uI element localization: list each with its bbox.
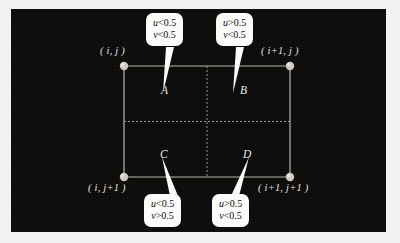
node-top-right bbox=[286, 62, 294, 70]
quadrant-label-c: C bbox=[160, 148, 168, 160]
quadrant-label-d: D bbox=[243, 148, 251, 160]
grid-geometry bbox=[0, 0, 400, 243]
corner-label-top-left: ( i, j ) bbox=[100, 45, 125, 56]
callout-d: u>0.5 v<0.5 bbox=[212, 194, 249, 227]
node-bottom-right bbox=[286, 173, 294, 181]
callout-b: u>0.5 v<0.5 bbox=[216, 13, 253, 46]
corner-label-bottom-right: ( i+1, j+1 ) bbox=[258, 182, 308, 193]
node-top-left bbox=[120, 62, 128, 70]
corner-label-bottom-left: ( i, j+1 ) bbox=[88, 182, 126, 193]
callout-d-line1: u>0.5 bbox=[219, 198, 242, 210]
callout-c-line1: u<0.5 bbox=[151, 198, 174, 210]
callout-c-line2: v>0.5 bbox=[151, 210, 174, 222]
callout-b-line1: u>0.5 bbox=[223, 17, 246, 29]
midline-dashed bbox=[124, 66, 290, 177]
quadrant-label-b: B bbox=[240, 84, 247, 96]
callout-a-line1: u<0.5 bbox=[153, 17, 176, 29]
callout-b-line2: v<0.5 bbox=[223, 29, 246, 41]
corner-label-top-right: ( i+1, j ) bbox=[261, 45, 299, 56]
figure-root: ( i, j ) ( i+1, j ) ( i, j+1 ) ( i+1, j+… bbox=[0, 0, 400, 243]
quadrant-label-a: A bbox=[161, 84, 168, 96]
node-bottom-left bbox=[120, 173, 128, 181]
callout-d-line2: v<0.5 bbox=[219, 210, 242, 222]
callout-a: u<0.5 v<0.5 bbox=[146, 13, 183, 46]
callout-c: u<0.5 v>0.5 bbox=[144, 194, 181, 227]
callout-a-line2: v<0.5 bbox=[153, 29, 176, 41]
